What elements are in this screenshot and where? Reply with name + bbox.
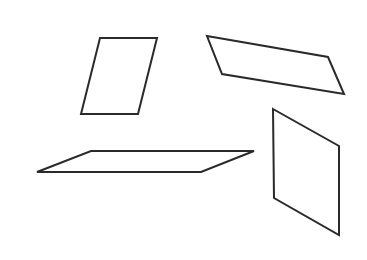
figure-canvas xyxy=(0,0,367,260)
parallelogram-lower-right xyxy=(273,109,339,235)
parallelogram-upper-left xyxy=(81,38,157,114)
parallelogram-lower-left xyxy=(37,151,254,172)
shapes-diagram xyxy=(0,0,367,260)
parallelogram-upper-right xyxy=(207,36,344,94)
